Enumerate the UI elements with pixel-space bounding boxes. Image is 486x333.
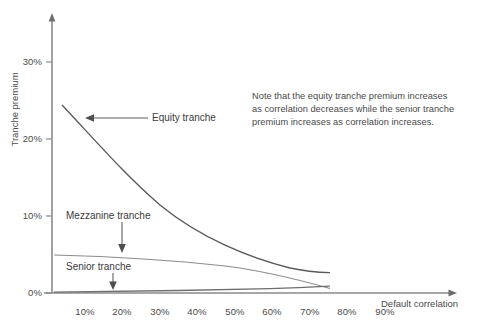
mezzanine-tranche-label: Mezzanine tranche [66, 210, 151, 221]
equity-tranche-curve [62, 105, 330, 273]
chart-plot-area [0, 0, 486, 333]
x-tick-label-70: 70% [292, 306, 328, 317]
x-axis-arrowhead [449, 290, 458, 297]
note-line-2: as correlation decreases while the senio… [252, 103, 467, 116]
x-tick-label-40: 40% [179, 306, 215, 317]
y-axis-arrowhead [49, 13, 56, 22]
y-tick-label-0: 0% [6, 287, 42, 298]
y-tick-label-10: 10% [6, 210, 42, 221]
senior-tranche-label: Senior tranche [66, 261, 131, 272]
x-tick-label-30: 30% [142, 306, 178, 317]
mezzanine-callout-arrowhead [118, 244, 126, 253]
explanatory-note: Note that the equity tranche premium inc… [252, 90, 467, 130]
x-axis-title: Default correlation [381, 298, 458, 309]
x-tick-label-10: 10% [67, 306, 103, 317]
equity-tranche-label: Equity tranche [152, 112, 216, 123]
note-line-3: premium increases as correlation increas… [252, 116, 467, 129]
senior-tranche-curve [54, 286, 330, 292]
senior-callout-arrowhead [109, 282, 117, 291]
x-tick-label-50: 50% [217, 306, 253, 317]
x-tick-label-20: 20% [104, 306, 140, 317]
y-axis-title: Tranche premium [9, 55, 20, 165]
x-tick-label-60: 60% [254, 306, 290, 317]
equity-callout-arrowhead [85, 114, 94, 122]
note-line-1: Note that the equity tranche premium inc… [252, 90, 467, 103]
x-tick-label-80: 80% [329, 306, 365, 317]
chart-container: 30% 20% 10% 0% 10% 20% 30% 40% 50% 60% 7… [0, 0, 486, 333]
